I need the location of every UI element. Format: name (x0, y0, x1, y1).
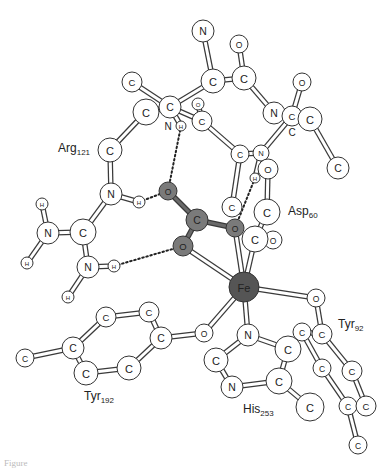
atom-label: C (142, 107, 150, 119)
atom-n: N (100, 183, 122, 205)
atom-label: O (196, 102, 201, 108)
atom-label: C (299, 328, 305, 338)
atom-label: Fe (238, 282, 251, 294)
atom-c: C (62, 337, 84, 359)
atom-label: N (107, 189, 115, 200)
atom-n: N (221, 376, 243, 398)
atom-c: C (349, 436, 367, 454)
atom-n: N (263, 102, 285, 124)
atom-label: C (319, 364, 325, 374)
atom-label: H (179, 124, 183, 130)
atom-label: O (236, 40, 243, 50)
atom-label: C (166, 102, 174, 113)
atom-c: C (16, 349, 34, 367)
atom-label: C (288, 127, 295, 138)
atom-h: H (21, 257, 33, 269)
atom-h: H (36, 198, 48, 210)
atom-label: C (251, 234, 259, 246)
atom-label: C (237, 150, 243, 160)
atom-label: C (229, 202, 236, 213)
atom-c: C (204, 348, 228, 372)
atom-c: C (313, 359, 331, 377)
atom-label: O (313, 294, 320, 304)
atom-c: C (275, 336, 301, 362)
atom-label: H (112, 264, 116, 270)
atom-label: C (146, 307, 153, 318)
residue-label-tyr192: Tyr192 (84, 389, 115, 405)
atom-c: C (342, 361, 362, 381)
atom-label: O (165, 187, 172, 197)
atom-label: C (69, 343, 77, 354)
atom-label: C (284, 344, 292, 356)
atom-h: H (108, 260, 120, 272)
atom-h: H (250, 173, 260, 183)
atom-label: C (240, 73, 248, 85)
atom-label: N (228, 382, 236, 393)
atom-c: C (201, 69, 225, 93)
atom-label: N (84, 262, 92, 273)
atom-o: O (230, 35, 248, 53)
atom-o: O (173, 236, 193, 256)
atom-label: N (199, 26, 207, 37)
hydrogen-bond (114, 246, 183, 266)
atom-c: C (232, 66, 256, 90)
atom-c: C (266, 368, 292, 394)
atom-o: O (192, 98, 204, 110)
atom-h: H (62, 291, 74, 303)
atom-label: H (40, 202, 44, 208)
atom-fe: Fe (229, 272, 259, 302)
atom-label: O (179, 241, 186, 252)
atom-label: N (258, 149, 263, 158)
atom-c: C (96, 307, 116, 327)
atom-c: C (70, 219, 96, 245)
atom-label: N (270, 108, 278, 119)
figure-caption: Figure (4, 458, 28, 468)
residue-label-arg: Arg121 (58, 141, 91, 157)
atom-c: C (296, 393, 324, 421)
atom-c: C (254, 199, 280, 225)
atom-label: C (334, 163, 342, 174)
atom-h: H (176, 121, 186, 131)
atom-label: C (125, 363, 133, 375)
atom-label: C (209, 76, 217, 88)
atom-c: C (186, 209, 208, 231)
atom-o: O (159, 182, 177, 200)
atom-o: O (226, 219, 244, 237)
atom-c: C (122, 72, 142, 92)
atom-label: C (355, 441, 361, 451)
active-site-diagram: NOCCCOCCOCHNCCCCNCOHONHHCCCONCOCOHHNFeHO… (0, 0, 390, 470)
atom-label: H (253, 176, 257, 182)
atom-label: C (22, 354, 28, 364)
atom-label: C (306, 114, 314, 126)
atom-label: H (25, 261, 29, 267)
atom-n: N (237, 324, 259, 346)
atom-label: C (275, 376, 283, 388)
atom-c: C (117, 356, 141, 380)
atom-label: C (106, 145, 114, 157)
atom-n: N (192, 20, 214, 42)
atom-label: C (345, 402, 351, 412)
atom-c: C (356, 396, 376, 416)
atom-label: C (79, 227, 87, 239)
atom-c: C (192, 111, 212, 131)
residue-label-asp: Asp60 (288, 204, 318, 220)
atom-c: C (298, 107, 322, 131)
atom-label: C (157, 333, 165, 344)
hydrogen-bond (168, 126, 181, 191)
atom-o: O (307, 289, 325, 307)
atom-label: O (299, 78, 306, 88)
atom-label: N (244, 330, 252, 341)
atom-c: C (159, 96, 181, 118)
atom-label: N (164, 121, 171, 132)
atom-label: C (103, 312, 110, 323)
atom-label: C (263, 207, 271, 219)
atom-n: N (37, 222, 59, 244)
atom-c: C (150, 327, 172, 349)
atom-label: C (212, 355, 220, 367)
atom-c: C (231, 145, 249, 163)
atom-label: O (201, 329, 208, 339)
atom-o: O (258, 159, 278, 179)
atom-c: C (312, 324, 332, 344)
atom-label: O (270, 236, 277, 246)
atom-label: C (199, 116, 206, 127)
